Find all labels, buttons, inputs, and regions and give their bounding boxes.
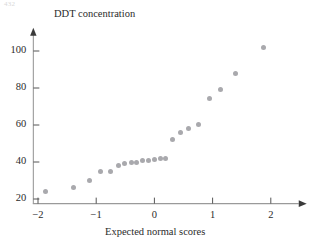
- x-tick-label: −1: [86, 209, 106, 220]
- data-point: [108, 169, 113, 174]
- data-point: [146, 158, 151, 163]
- y-tick-label: 40: [2, 155, 26, 166]
- x-tick-label: −2: [28, 209, 48, 220]
- data-point: [158, 156, 163, 161]
- data-point: [186, 126, 191, 131]
- data-point: [196, 122, 201, 127]
- data-point: [116, 163, 121, 168]
- x-tick-label: 2: [261, 209, 281, 220]
- x-axis-title: Expected normal scores: [105, 226, 205, 237]
- x-axis-arrow-icon: [299, 200, 307, 207]
- data-point: [207, 96, 212, 101]
- x-tick-label: 0: [144, 209, 164, 220]
- data-point: [261, 45, 266, 50]
- y-tick-label: 80: [2, 81, 26, 92]
- data-point: [178, 130, 183, 135]
- y-axis-arrow-icon: [30, 28, 36, 36]
- y-tick-label: 100: [2, 44, 26, 55]
- y-axis-title: DDT concentration: [54, 8, 135, 19]
- figure-panel: 432 DDT concentration Expected normal sc…: [0, 0, 319, 245]
- data-point: [140, 158, 145, 163]
- data-point: [163, 156, 168, 161]
- x-tick-label: 1: [203, 209, 223, 220]
- data-point: [152, 157, 157, 162]
- y-tick-label: 60: [2, 118, 26, 129]
- y-tick-label: 20: [2, 192, 26, 203]
